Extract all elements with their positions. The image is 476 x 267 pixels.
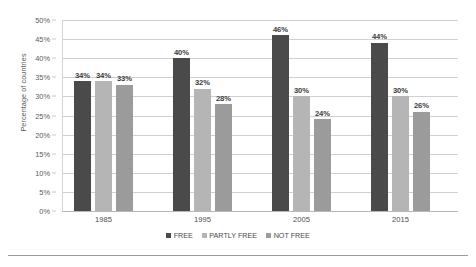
y-axis-tick-labels: 50%45%40%35%30%25%20%15%10%5%0%	[0, 20, 56, 211]
bar-group-2005: 46%30%24%	[272, 20, 331, 211]
y-tick-mark-5	[52, 191, 56, 192]
bar-1985-free[interactable]	[74, 81, 91, 211]
bar-value-label-1985-not-free: 33%	[108, 74, 142, 83]
bar-2005-free[interactable]	[272, 35, 289, 211]
y-tick-label-0: 0%	[39, 207, 50, 216]
bar-value-label-2015-not-free: 26%	[405, 101, 439, 110]
y-tick-label-20: 20%	[35, 130, 50, 139]
legend-swatch-icon-not-free	[266, 233, 271, 238]
bar-2015-partly-free[interactable]	[392, 96, 409, 211]
y-tick-label-15: 15%	[35, 149, 50, 158]
legend-label-free: FREE	[174, 231, 193, 240]
y-tick-label-35: 35%	[35, 73, 50, 82]
y-tick-mark-15	[52, 153, 56, 154]
bar-1995-partly-free[interactable]	[194, 89, 211, 211]
chart-legend: FREEPARTLY FREENOT FREE	[0, 231, 476, 240]
legend-entry-not-free[interactable]: NOT FREE	[266, 231, 310, 240]
bar-group-1985: 34%34%33%	[74, 20, 133, 211]
y-tick-label-5: 5%	[39, 187, 50, 196]
bar-chart-figure: Percentage of countries 50%45%40%35%30%2…	[0, 0, 476, 267]
x-tick-label-2005: 2005	[262, 215, 342, 224]
y-tick-label-40: 40%	[35, 54, 50, 63]
y-tick-label-10: 10%	[35, 168, 50, 177]
y-tick-mark-10	[52, 172, 56, 173]
bar-group-2015: 44%30%26%	[371, 20, 430, 211]
x-tick-label-1995: 1995	[163, 215, 243, 224]
bar-group-1995: 40%32%28%	[173, 20, 232, 211]
y-tick-mark-45	[52, 39, 56, 40]
y-tick-mark-0	[52, 211, 56, 212]
y-tick-label-30: 30%	[35, 92, 50, 101]
plot-area: 34%34%33%40%32%28%46%30%24%44%30%26%	[62, 20, 458, 211]
y-tick-label-45: 45%	[35, 35, 50, 44]
y-tick-mark-40	[52, 58, 56, 59]
legend-label-not-free: NOT FREE	[274, 231, 310, 240]
bar-value-label-2005-free: 46%	[264, 25, 298, 34]
y-tick-mark-20	[52, 134, 56, 135]
y-tick-mark-25	[52, 115, 56, 116]
bar-1985-not-free[interactable]	[116, 85, 133, 211]
bar-1995-not-free[interactable]	[215, 104, 232, 211]
bar-1985-partly-free[interactable]	[95, 81, 112, 211]
bar-value-label-2005-partly-free: 30%	[285, 86, 319, 95]
legend-swatch-icon-partly-free	[202, 233, 207, 238]
legend-entry-partly-free[interactable]: PARTLY FREE	[202, 231, 257, 240]
y-tick-label-50: 50%	[35, 16, 50, 25]
legend-entry-free[interactable]: FREE	[166, 231, 193, 240]
y-tick-label-25: 25%	[35, 111, 50, 120]
x-tick-label-2015: 2015	[361, 215, 441, 224]
legend-label-partly-free: PARTLY FREE	[209, 231, 257, 240]
legend-swatch-icon-free	[166, 233, 171, 238]
bars-layer: 34%34%33%40%32%28%46%30%24%44%30%26%	[62, 20, 458, 211]
x-tick-label-1985: 1985	[64, 215, 144, 224]
bar-value-label-2005-not-free: 24%	[306, 109, 340, 118]
bar-value-label-1995-partly-free: 32%	[186, 78, 220, 87]
bar-value-label-2015-partly-free: 30%	[384, 86, 418, 95]
y-tick-mark-35	[52, 77, 56, 78]
bar-value-label-1995-not-free: 28%	[207, 94, 241, 103]
gridline-0	[62, 211, 458, 212]
y-tick-mark-30	[52, 96, 56, 97]
bar-value-label-1995-free: 40%	[165, 48, 199, 57]
bar-value-label-2015-free: 44%	[363, 32, 397, 41]
y-tick-mark-50	[52, 20, 56, 21]
bar-2005-not-free[interactable]	[314, 119, 331, 211]
x-axis-tick-labels: 1985199520052015	[62, 213, 458, 229]
bar-2015-not-free[interactable]	[413, 112, 430, 211]
footer-divider	[8, 255, 468, 256]
bar-2015-free[interactable]	[371, 43, 388, 211]
